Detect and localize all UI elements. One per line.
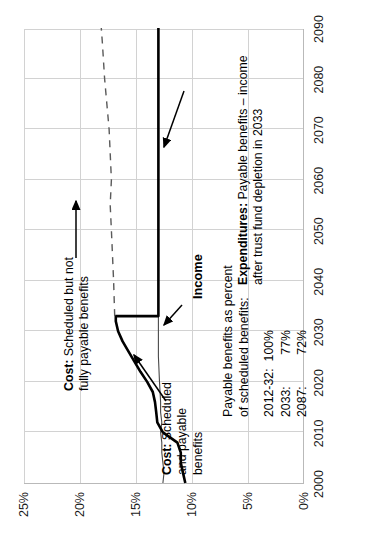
annotation-cost-payable-lead: Cost: [160, 444, 174, 475]
annotation-expenditures: Expenditures: Payable benefits – income … [220, 55, 267, 285]
stats-heading-line1: Payable benefits as percent [220, 265, 236, 417]
stats-heading-line2: of scheduled benefits: [236, 265, 252, 417]
xtick-2020: 2020 [312, 360, 326, 406]
stats-row: 2012-32: 100% [261, 330, 277, 417]
stats-row-label: 2033: [278, 368, 294, 417]
annotation-cost-not-payable: Cost: Scheduled but not fully payable be… [46, 241, 93, 391]
plot-area: Cost: Scheduled but not fully payable be… [24, 29, 304, 484]
payable-benefits-stats-box: Payable benefits as percent of scheduled… [220, 265, 310, 417]
xtick-2040: 2040 [312, 259, 326, 305]
xtick-2060: 2060 [312, 158, 326, 204]
stats-row-label: 2012-32: [261, 368, 277, 417]
annotation-cost-not-payable-lead: Cost: [62, 360, 76, 391]
arrow-income [164, 305, 182, 325]
stats-row-label: 2087: [294, 368, 310, 417]
stats-row: 2087: 72% [294, 330, 310, 417]
xtick-2030: 2030 [312, 309, 326, 355]
ytick-20: 20% [73, 492, 87, 538]
rotated-chart-stage: Cost: Scheduled but not fully payable be… [0, 0, 368, 540]
annotation-income-label: Income [190, 254, 205, 299]
annotation-cost-payable: Cost: Scheduled and payable benefits [144, 380, 207, 475]
annotation-income: Income [174, 254, 207, 299]
xtick-2080: 2080 [312, 57, 326, 103]
ytick-10: 10% [185, 492, 199, 538]
xtick-2000: 2000 [312, 461, 326, 507]
xtick-2010: 2010 [312, 410, 326, 456]
stats-row: 2033: 77% [278, 330, 294, 417]
stats-heading: Payable benefits as percent of scheduled… [220, 265, 252, 417]
xtick-2090: 2090 [312, 6, 326, 52]
stats-row-value: 77% [278, 330, 294, 368]
xtick-2070: 2070 [312, 107, 326, 153]
ytick-0: 0% [297, 492, 311, 538]
stats-row-value: 72% [294, 330, 310, 368]
stats-row-value: 100% [261, 330, 277, 368]
ytick-25: 25% [17, 492, 31, 538]
ytick-5: 5% [241, 492, 255, 538]
stats-table: 2012-32: 100% 2033: 77% 2087: 72% [261, 330, 310, 417]
arrow-expenditures [164, 91, 184, 147]
xtick-2050: 2050 [312, 208, 326, 254]
ytick-15: 15% [129, 492, 143, 538]
